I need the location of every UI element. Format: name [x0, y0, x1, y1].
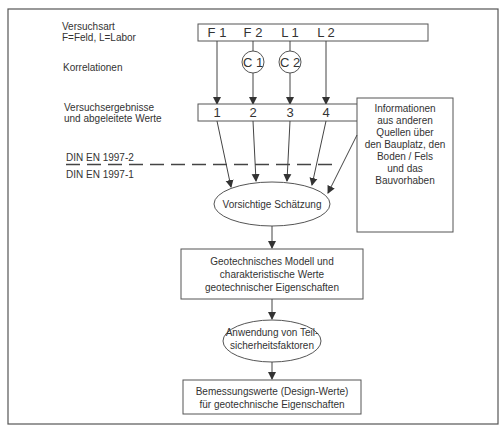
test-type-l1: L 1	[281, 25, 299, 40]
model-line-3: geotechnischer Eigenschaften	[205, 282, 339, 293]
partial-factors-line-2: sicherheitsfaktoren	[230, 340, 314, 351]
result-2: 2	[249, 105, 256, 120]
arrow-2-to-estimate	[253, 121, 256, 181]
model-line-2: charakteristische Werte	[220, 269, 325, 280]
label-din-1997-2: DIN EN 1997-2	[66, 152, 134, 163]
result-3: 3	[286, 105, 293, 120]
test-type-l2: L 2	[317, 25, 335, 40]
label-versuchsart: Versuchsart	[62, 21, 115, 32]
info-line-3: Quellen über	[376, 127, 434, 138]
result-1: 1	[213, 105, 220, 120]
model-line-1: Geotechnisches Modell und	[210, 256, 333, 267]
test-type-f1: F 1	[208, 25, 227, 40]
test-type-f2: F 2	[244, 25, 263, 40]
info-line-1: Informationen	[374, 103, 435, 114]
label-abgeleitete-werte: und abgeleitete Werte	[64, 113, 162, 124]
arrow-3-to-estimate	[287, 121, 290, 181]
info-line-7: Bauvorhaben	[375, 175, 435, 186]
arrow-info-to-estimate	[328, 135, 357, 193]
label-korrelationen: Korrelationen	[63, 62, 122, 73]
label-din-1997-1: DIN EN 1997-1	[66, 169, 134, 180]
label-feld-labor: F=Feld, L=Labor	[62, 32, 137, 43]
result-4: 4	[322, 105, 329, 120]
correlation-c2: C 2	[280, 55, 300, 70]
info-line-5: Boden / Fels	[377, 151, 433, 162]
info-line-4: den Bauplatz, den	[365, 139, 446, 150]
info-line-6: und das	[387, 163, 423, 174]
design-line-2: für geotechnische Eigenschaften	[199, 399, 344, 410]
estimate-label: Vorsichtige Schätzung	[223, 199, 322, 210]
arrow-4-to-estimate	[312, 121, 326, 185]
info-line-2: aus anderen	[377, 115, 433, 126]
correlation-c1: C 1	[243, 55, 263, 70]
label-versuchsergebnisse: Versuchsergebnisse	[64, 102, 154, 113]
arrow-1-to-estimate	[217, 121, 231, 187]
design-line-1: Bemessungswerte (Design-Werte)	[196, 386, 349, 397]
test-type-box	[198, 24, 428, 41]
partial-factors-line-1: Anwendung von Teil-	[226, 327, 319, 338]
flow-diagram: Versuchsart F=Feld, L=Labor Korrelatione…	[0, 0, 502, 432]
